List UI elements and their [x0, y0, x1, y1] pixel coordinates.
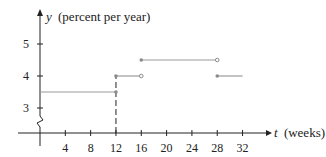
labels: y (percent per year) t (weeks) — [44, 9, 325, 140]
y-axis-arrow-icon — [37, 9, 43, 16]
closed-dot — [139, 58, 143, 62]
y-tick-label: 5 — [23, 37, 29, 51]
closed-dot — [114, 90, 118, 94]
x-tick-label: 32 — [237, 141, 249, 155]
open-dot — [215, 58, 219, 62]
x-tick-label: 8 — [88, 141, 94, 155]
x-tick-label: 24 — [186, 141, 198, 155]
x-tick-label: 28 — [211, 141, 223, 155]
closed-dot — [215, 74, 219, 78]
axis-break-icon — [37, 116, 43, 127]
x-tick-label: 4 — [62, 141, 68, 155]
x-tick-label: 20 — [161, 141, 173, 155]
x-tick-label: 16 — [135, 141, 147, 155]
x-tick-label: 12 — [110, 141, 122, 155]
y-axis-label: y (percent per year) — [44, 9, 150, 24]
plot-area — [40, 58, 243, 133]
closed-dot — [114, 74, 118, 78]
x-axis-label: t (weeks) — [274, 125, 325, 140]
y-tick-label: 4 — [23, 69, 29, 83]
x-axis-arrow-icon — [266, 130, 272, 136]
step-chart: 48121620242832345 y (percent per year) t… — [0, 0, 326, 157]
open-dot — [139, 74, 143, 78]
y-tick-label: 3 — [23, 101, 29, 115]
axes: 48121620242832345 — [18, 9, 272, 155]
